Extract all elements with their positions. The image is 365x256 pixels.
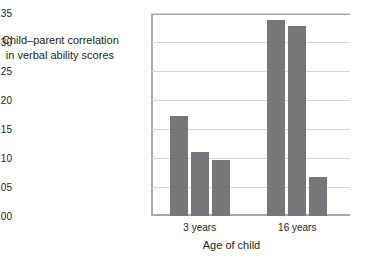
bar	[212, 160, 230, 216]
y-axis-tick-label: .30	[0, 37, 12, 48]
plot-area	[151, 13, 350, 216]
bar	[309, 177, 327, 216]
y-axis-tick-label: .25	[0, 66, 12, 77]
x-axis-tick-label: 16 years	[278, 222, 316, 233]
y-axis-tick-label: .05	[0, 182, 12, 193]
y-axis-tick-label: .10	[0, 153, 12, 164]
gridline	[151, 42, 350, 43]
bar	[267, 20, 285, 216]
bar	[191, 152, 209, 216]
gridline	[151, 13, 350, 14]
x-axis-title: Age of child	[0, 239, 365, 251]
y-axis-tick-label: .00	[0, 211, 12, 222]
bar-chart-figure: Child–parent correlation in verbal abili…	[0, 0, 365, 256]
y-axis-tick-label: .20	[0, 95, 12, 106]
bar	[170, 116, 188, 216]
gridline	[151, 71, 350, 72]
y-axis-tick-label: .15	[0, 124, 12, 135]
y-axis-title-line-1: Child–parent correlation	[2, 33, 114, 48]
x-axis-title-text: Age of child	[203, 239, 260, 251]
bar	[288, 26, 306, 216]
x-axis-tick-label: 3 years	[183, 222, 216, 233]
y-axis-title-line-2: in verbal ability scores	[2, 48, 114, 63]
y-axis-title: Child–parent correlation in verbal abili…	[2, 33, 114, 63]
y-axis-tick-label: .35	[0, 8, 12, 19]
gridline	[151, 100, 350, 101]
